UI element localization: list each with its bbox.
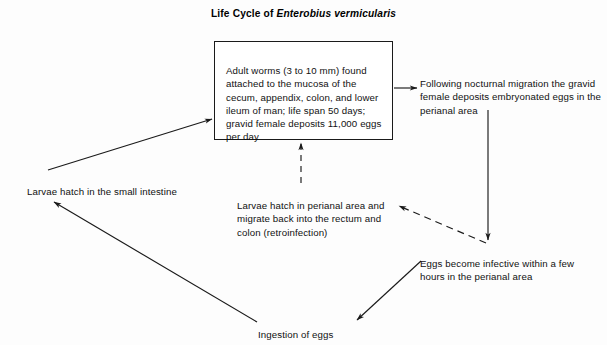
node-larvae-small-intestine: Larvae hatch in the small intestine (27, 172, 192, 198)
edge-infective-to-ingestion (357, 261, 421, 320)
edge-small-intestine-to-adult (48, 119, 212, 170)
edge-ingestion-to-small-intestine (54, 202, 257, 322)
node-adult-worms-text: Adult worms (3 to 10 mm) found attached … (226, 64, 386, 143)
edge-infective-to-larvae-perianal (399, 206, 486, 243)
node-eggs-infective-text: Eggs become infective within a few hours… (420, 258, 574, 282)
diagram-title-prefix: Life Cycle of (211, 8, 277, 19)
node-larvae-perianal-text: Larvae hatch in perianal area and migrat… (237, 200, 385, 237)
life-cycle-diagram: Life Cycle of Enterobius vermicularis Ad… (0, 0, 607, 345)
node-larvae-small-intestine-text: Larvae hatch in the small intestine (27, 186, 177, 197)
diagram-title: Life Cycle of Enterobius vermicularis (0, 8, 607, 19)
node-adult-worms: Adult worms (3 to 10 mm) found attached … (214, 41, 393, 140)
node-larvae-perianal: Larvae hatch in perianal area and migrat… (237, 186, 397, 239)
node-ingestion: Ingestion of eggs (258, 315, 358, 341)
node-nocturnal-migration-text: Following nocturnal migration the gravid… (420, 78, 601, 115)
node-nocturnal-migration: Following nocturnal migration the gravid… (420, 64, 602, 117)
node-eggs-infective: Eggs become infective within a few hours… (420, 244, 600, 284)
diagram-title-species: Enterobius vermicularis (276, 8, 396, 19)
node-ingestion-text: Ingestion of eggs (258, 329, 333, 340)
